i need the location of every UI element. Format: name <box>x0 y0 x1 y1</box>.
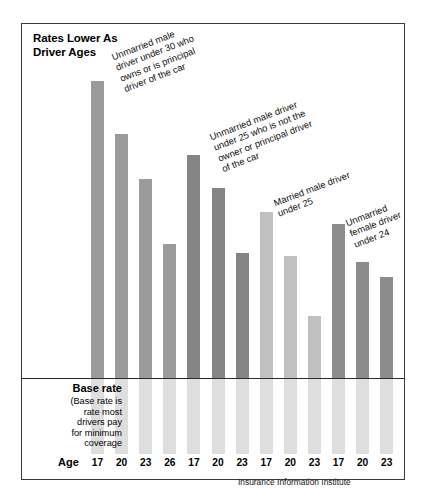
axis-title-age: Age <box>58 456 79 468</box>
bar-segment-base-rate <box>163 378 176 454</box>
axis-tick-label: 17 <box>85 457 111 468</box>
bar-segment-above-base <box>380 277 393 378</box>
bar-segment-base-rate <box>236 378 249 454</box>
bar-segment-above-base <box>187 155 200 378</box>
bar-segment-base-rate <box>332 378 345 454</box>
base-rate-line <box>22 378 404 379</box>
bar <box>308 316 321 454</box>
base-rate-note: (Base rate is rate most drivers pay for … <box>30 396 122 449</box>
axis-tick-label: 20 <box>205 457 231 468</box>
axis-tick-label: 23 <box>133 457 159 468</box>
bar-segment-base-rate <box>187 378 200 454</box>
bar-segment-base-rate <box>139 378 152 454</box>
bar <box>380 277 393 454</box>
bar-segment-above-base <box>115 134 128 378</box>
bar <box>260 212 273 454</box>
bar-segment-above-base <box>139 179 152 378</box>
axis-tick-label: 23 <box>301 457 327 468</box>
bar-segment-base-rate <box>308 378 321 454</box>
bar-segment-above-base <box>163 244 176 378</box>
anno-1: Unmarried male driver under 30 who owns … <box>110 22 204 94</box>
bar-segment-base-rate <box>260 378 273 454</box>
bar <box>139 179 152 454</box>
bar-segment-above-base <box>284 256 297 378</box>
chart-frame: Rates Lower As Driver Ages Unmarried mal… <box>21 23 405 480</box>
bar <box>187 155 200 454</box>
bar-segment-above-base <box>332 224 345 378</box>
bar-segment-above-base <box>236 253 249 378</box>
bar <box>236 253 249 454</box>
axis-tick-label: 20 <box>109 457 135 468</box>
axis-tick-label: 23 <box>374 457 400 468</box>
anno-2: Unmarried male driver under 25 who is no… <box>208 96 318 174</box>
bar-segment-base-rate <box>212 378 225 454</box>
axis-tick-label: 20 <box>350 457 376 468</box>
bar <box>212 188 225 454</box>
bar-segment-base-rate <box>380 378 393 454</box>
bar <box>284 256 297 454</box>
axis-tick-label: 17 <box>181 457 207 468</box>
bar <box>332 224 345 454</box>
bar-segment-above-base <box>91 81 104 378</box>
bar <box>356 262 369 454</box>
bar-segment-above-base <box>356 262 369 378</box>
bar-segment-base-rate <box>284 378 297 454</box>
bar-segment-above-base <box>308 316 321 378</box>
axis-tick-label: 23 <box>229 457 255 468</box>
anno-3: Married male driver under 25 <box>272 169 356 219</box>
axis-tick-label: 26 <box>157 457 183 468</box>
source-credit: Insurance Information Institute <box>238 477 351 487</box>
bar-segment-base-rate <box>356 378 369 454</box>
base-rate-block: Base rate (Base rate is rate most driver… <box>30 382 122 449</box>
anno-4: Unmarried female driver under 24 <box>344 199 407 250</box>
bar-segment-above-base <box>260 212 273 378</box>
axis-tick-label: 20 <box>277 457 303 468</box>
axis-tick-label: 17 <box>253 457 279 468</box>
axis-tick-label: 17 <box>326 457 352 468</box>
base-rate-heading: Base rate <box>30 382 122 395</box>
bar <box>163 244 176 454</box>
bar-segment-above-base <box>212 188 225 378</box>
